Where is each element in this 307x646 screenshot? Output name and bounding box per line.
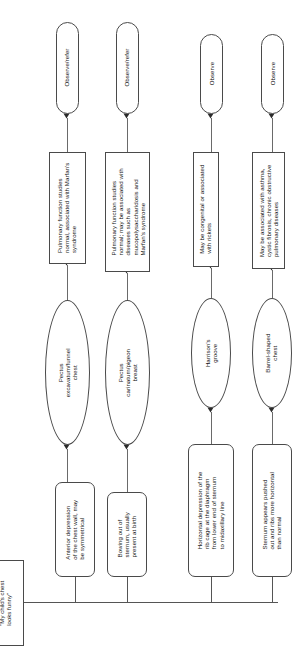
branch-2-diagnosis-label: Pectus carinatum/pigeon breast (117, 349, 139, 397)
branch-1-diagnosis-node: Pectus excavatum/funnel chest (45, 300, 90, 445)
branch-2-note-box: Pulmonary function studies normal; may b… (105, 152, 150, 272)
branch-3-symptom-box: Horizontal depression of the rib cage at… (188, 444, 234, 577)
branch-2-stem (127, 576, 128, 603)
branch-3-diagnosis-label: Harrison's groove (204, 339, 218, 367)
branch-1-symptom-label: Anterior depression of the chest wall, m… (64, 500, 86, 560)
branch-3-action-node: Observe (200, 34, 223, 114)
branch-2-symptom-label: Bowing out of sternum, usually present a… (116, 512, 138, 557)
branch-4-note-label: May be associated with asthma, cystic fi… (258, 164, 280, 257)
branch-3-symptom-label: Horizontal depression of the rib cage at… (197, 472, 226, 550)
branch-1-connector-2 (67, 265, 68, 300)
branch-1-arrow-3 (64, 114, 70, 119)
branch-1-note-label: Pulmonary function studies normal, assoc… (57, 163, 79, 254)
root-node: "My child's chest looks funny" (0, 560, 24, 646)
branch-1-connector-3 (67, 118, 68, 152)
branch-2-symptom-box: Bowing out of sternum, usually present a… (107, 492, 147, 577)
branch-3-action-label: Observe (208, 62, 215, 85)
branch-1-arrow-1 (64, 445, 70, 450)
branch-4-note-box: May be associated with asthma, cystic fi… (252, 152, 285, 269)
branch-4-connector-2 (272, 270, 273, 298)
branch-1-action-node: Observe/refer (56, 22, 79, 114)
branch-4-stem (272, 576, 273, 603)
branch-3-note-label: May be congenital or associated with ric… (199, 165, 213, 254)
branch-3-diagnosis-node: Harrison's groove (191, 298, 231, 408)
branch-4-arrow-1 (269, 408, 275, 413)
branch-3-connector-2 (211, 268, 212, 298)
branch-2-connector-3 (127, 118, 128, 152)
branch-3-arrow-3 (208, 114, 214, 119)
branch-4-action-node: Observe (261, 34, 284, 114)
branch-4-symptom-label: Sternum appears pushed out and ribs more… (261, 472, 283, 549)
branch-4-symptom-box: Sternum appears pushed out and ribs more… (252, 444, 292, 577)
root-node-label: "My child's chest looks funny" (0, 581, 13, 626)
branch-1-connector-1 (67, 449, 68, 482)
branch-1-action-label: Observe/refer (64, 49, 71, 87)
branch-4-arrow-3 (269, 114, 275, 119)
branch-3-stem (211, 576, 212, 603)
branch-2-note-label: Pulmonary function studies normal; may b… (110, 168, 146, 255)
branch-4-connector-3 (272, 118, 273, 152)
branch-2-diagnosis-node: Pectus carinatum/pigeon breast (105, 300, 150, 445)
branch-1-stem (75, 576, 76, 603)
branch-1-diagnosis-label: Pectus excavatum/funnel chest (57, 348, 79, 397)
branch-2-action-node: Observe/refer (116, 22, 139, 114)
branch-2-connector-2 (127, 273, 128, 300)
branch-3-connector-3 (211, 118, 212, 152)
branch-1-symptom-box: Anterior depression of the chest wall, m… (55, 482, 95, 577)
branch-4-action-label: Observe (269, 62, 276, 85)
branch-2-arrow-1 (124, 445, 130, 450)
root-trunk-line (24, 602, 278, 603)
branch-2-arrow-3 (124, 114, 130, 119)
branch-2-action-label: Observe/refer (124, 49, 131, 87)
branch-2-connector-1 (127, 449, 128, 492)
branch-1-note-box: Pulmonary function studies normal, assoc… (49, 152, 86, 264)
branch-4-diagnosis-label: Barrel-shaped chest (265, 333, 279, 372)
flowchart-canvas: "My child's chest looks funny" Anterior … (0, 0, 307, 646)
branch-3-note-box: May be congenital or associated with ric… (193, 152, 219, 267)
branch-4-connector-1 (272, 412, 273, 444)
branch-4-diagnosis-node: Barrel-shaped chest (252, 298, 292, 408)
branch-3-connector-1 (211, 412, 212, 444)
branch-3-arrow-1 (208, 408, 214, 413)
